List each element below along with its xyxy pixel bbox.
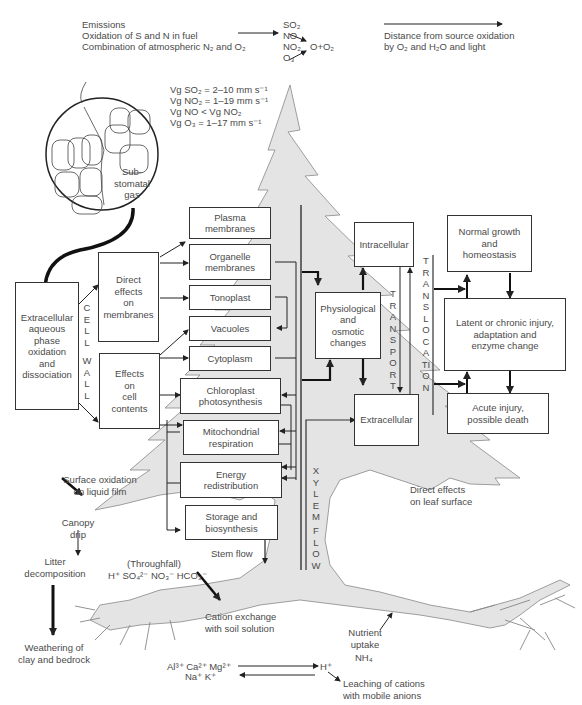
vg-no: Vg NO < Vg NO₂ [170, 106, 242, 118]
transport-label: TRANSPORT [388, 288, 398, 392]
vg-so2: Vg SO₂ = 2–10 mm s⁻¹ [170, 84, 268, 96]
pollutant-no2: NO₂ [283, 41, 301, 53]
box-intracellular: Intracellular [354, 222, 414, 267]
box-organelle-membranes: Organelle membranes [189, 244, 271, 280]
nh4-label: NH₄ [355, 652, 373, 664]
box-chloroplast: Chloroplast photosynthesis [180, 378, 281, 414]
leaching-label: Leaching of cations with mobile anions [343, 678, 425, 701]
box-extracellular-aqueous: Extracellular aqueous phase oxidation an… [15, 282, 79, 410]
cation-exchange-label: Cation exchange with soil solution [205, 611, 276, 634]
flow-label: FLOW [311, 525, 321, 571]
weathering-label: Weathering of clay and bedrock [15, 642, 93, 665]
direct-leaf-label: Direct effects on leaf surface [410, 484, 472, 507]
litter-decomposition-label: Litter decomposition [20, 556, 90, 579]
wall-label: WALL [82, 355, 92, 401]
vg-no2: Vg NO₂ = 1–19 mm s⁻¹ [170, 95, 268, 107]
distance-label-2: by O₂ and H₂O and light [384, 41, 485, 53]
throughfall-ions: H⁺ SO₄²⁻ NO₃⁻ HCO₃⁻ [108, 570, 207, 582]
pollutant-o3: O₃ [283, 52, 294, 64]
box-physiological: Physiological and osmotic changes [315, 292, 381, 359]
box-mitochondrial: Mitochondrial respiration [183, 420, 279, 455]
pollutant-no: NO [283, 30, 297, 42]
emissions-label: Emissions [82, 19, 125, 31]
box-storage: Storage and biosynthesis [185, 505, 278, 540]
stem-flow-label: Stem flow [211, 548, 253, 560]
product-label: O+O₂ [310, 41, 334, 53]
nutrient-uptake-label: Nutrient uptake [340, 627, 390, 650]
box-acute-injury: Acute injury, possible death [447, 393, 549, 434]
cell-label: CELL [82, 302, 92, 348]
box-tonoplast: Tonoplast [189, 285, 271, 310]
throughfall-label: (Throughfall) [127, 558, 181, 570]
translocation-label: TRANSLOCATION [421, 255, 431, 393]
box-plasma-membranes: Plasma membranes [189, 207, 271, 239]
box-latent-injury: Latent or chronic injury, adaptation and… [444, 298, 566, 371]
xylem-label: XYLEM [311, 465, 321, 523]
combination-label: Combination of atmospheric N₂ and O₂ [82, 41, 246, 53]
box-vacuoles: Vacuoles [189, 316, 271, 341]
canopy-drip-label: Canopy drip [58, 517, 98, 540]
cations-bottom-label: Na⁺ K⁺ [185, 671, 216, 683]
substomatal-label: Sub- stomatal gas [108, 166, 156, 201]
box-direct-effects: Direct effects on membranes [98, 252, 159, 342]
h-plus-label: H⁺ [320, 661, 332, 673]
box-effects-cell-contents: Effects on cell contents [99, 353, 160, 429]
vg-o3: Vg O₃ = 1–17 mm s⁻¹ [170, 117, 262, 129]
surface-oxidation-label: Surface oxidation on liquid film [55, 474, 145, 497]
distance-label-1: Distance from source oxidation [384, 30, 514, 42]
pollutant-so2: SO₂ [283, 19, 300, 31]
box-cytoplasm: Cytoplasm [189, 346, 271, 371]
box-energy: Energy redistribution [180, 462, 282, 498]
oxidation-label: Oxidation of S and N in fuel [82, 30, 198, 42]
box-extracellular: Extracellular [354, 394, 419, 446]
box-normal-growth: Normal growth and homeostasis [447, 215, 532, 272]
